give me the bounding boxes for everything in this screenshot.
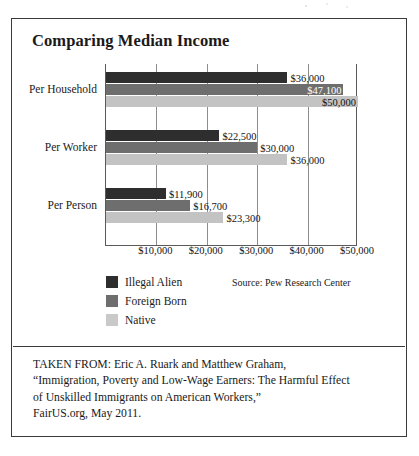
legend-swatch (106, 314, 118, 326)
chart-legend: Illegal AlienForeign BornNative (106, 272, 187, 329)
bar-value-label: $23,300 (226, 212, 260, 223)
bar-group: Per Household$36,000$47,100$50,000 (106, 72, 356, 108)
x-tick-label: $30,000 (239, 245, 273, 256)
bar-value-label: $47,100 (307, 84, 341, 95)
legend-item: Illegal Alien (106, 272, 187, 291)
bar-value-label: $50,000 (322, 96, 356, 107)
x-tick-label: $20,000 (189, 245, 223, 256)
bar: $50,000 (106, 96, 358, 107)
bar-chart: Per Household$36,000$47,100$50,000Per Wo… (12, 59, 408, 274)
attribution-line: FairUS.org, May 2011. (33, 406, 391, 422)
attribution-line: “Immigration, Poverty and Low-Wage Earne… (33, 373, 391, 389)
bar-value-label: $11,900 (169, 188, 203, 199)
category-label: Per Worker (45, 141, 97, 153)
legend-label: Foreign Born (125, 295, 187, 307)
bar-value-label: $36,000 (290, 72, 324, 83)
bar: $47,100 (106, 84, 343, 95)
source-note: Source: Pew Research Center (232, 277, 351, 288)
attribution-line: of Unskilled Immigrants on American Work… (33, 390, 391, 406)
bar: $36,000 (106, 154, 287, 165)
bar: $22,500 (106, 130, 219, 141)
legend-label: Illegal Alien (125, 276, 182, 288)
divider (13, 346, 405, 347)
bar-value-label: $22,500 (222, 130, 256, 141)
bar: $16,700 (106, 200, 190, 211)
page-title: Comparing Median Income (32, 31, 230, 51)
bar: $23,300 (106, 212, 223, 223)
legend-item: Native (106, 310, 187, 329)
x-tick-label: $10,000 (138, 245, 172, 256)
bar-group: Per Worker$22,500$30,000$36,000 (106, 130, 356, 166)
plot-area: Per Household$36,000$47,100$50,000Per Wo… (105, 64, 357, 246)
x-tick-label: $50,000 (340, 245, 374, 256)
legend-swatch (106, 276, 118, 288)
bar-value-label: $30,000 (260, 142, 294, 153)
figure-box: Comparing Median Income Per Household$36… (11, 18, 407, 437)
legend-swatch (106, 295, 118, 307)
attribution-text: TAKEN FROM: Eric A. Ruark and Matthew Gr… (33, 357, 391, 422)
bar: $30,000 (106, 142, 257, 153)
legend-label: Native (125, 314, 156, 326)
scan-artifact (300, 2, 360, 10)
legend-item: Foreign Born (106, 291, 187, 310)
category-label: Per Person (47, 199, 97, 211)
bar-value-label: $36,000 (290, 154, 324, 165)
bar: $36,000 (106, 72, 287, 83)
category-label: Per Household (29, 83, 97, 95)
bar: $11,900 (106, 188, 166, 199)
bar-group: Per Person$11,900$16,700$23,300 (106, 188, 356, 224)
x-tick-label: $40,000 (290, 245, 324, 256)
attribution-line: TAKEN FROM: Eric A. Ruark and Matthew Gr… (33, 357, 391, 373)
bar-value-label: $16,700 (193, 200, 227, 211)
